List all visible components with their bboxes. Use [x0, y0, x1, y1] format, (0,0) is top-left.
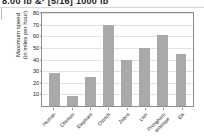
plot-area: 1020304050607080 — [41, 12, 194, 107]
y-tick-label: 40 — [33, 57, 39, 63]
x-tick-label: Lion — [138, 112, 149, 123]
bar-slot — [172, 13, 190, 106]
bar-slot — [154, 13, 172, 106]
bar-slot — [99, 13, 117, 106]
y-axis-title-line2: (in miles per hour) — [22, 11, 30, 59]
y-tick-label: 50 — [33, 45, 39, 51]
bar-series — [42, 13, 193, 106]
bar[interactable] — [139, 48, 150, 106]
x-label-slot: Zebra — [118, 108, 136, 140]
x-tick-label: Ostrich — [97, 112, 112, 127]
x-tick-mark — [163, 108, 164, 110]
x-label-slot: Elephant — [81, 108, 99, 140]
bar[interactable] — [103, 25, 114, 106]
bar[interactable] — [49, 73, 60, 106]
bar[interactable] — [121, 60, 132, 107]
bar-slot — [136, 13, 154, 106]
x-tick-mark — [127, 108, 128, 110]
bar-slot — [63, 13, 81, 106]
x-tick-mark — [53, 108, 54, 110]
y-tick-label: 60 — [33, 33, 39, 39]
x-tick-mark — [182, 108, 183, 110]
x-label-slot: Pronghorn antelope — [154, 108, 172, 140]
bar-chart: Maximum speed (in miles per hour) 102030… — [0, 8, 204, 140]
x-label-slot: Ostrich — [99, 108, 117, 140]
x-axis-labels: HumanChickenElephantOstrichZebraLionPron… — [41, 108, 194, 140]
bar-slot — [81, 13, 99, 106]
x-tick-mark — [72, 108, 73, 110]
bar[interactable] — [176, 54, 187, 106]
y-tick-label: 80 — [33, 10, 39, 16]
x-tick-label: Zebra — [117, 112, 130, 125]
bar-slot — [118, 13, 136, 106]
x-label-slot: Elk — [173, 108, 191, 140]
y-tick-label: 30 — [33, 68, 39, 74]
x-tick-mark — [145, 108, 146, 110]
bar[interactable] — [85, 77, 96, 106]
y-axis-title-line1: Maximum speed — [15, 13, 23, 57]
bar-slot — [45, 13, 63, 106]
y-axis-title: Maximum speed (in miles per hour) — [11, 0, 33, 83]
bar[interactable] — [157, 35, 168, 106]
x-tick-label: Human — [42, 112, 57, 127]
y-tick-label: 20 — [33, 80, 39, 86]
y-tick-label: 10 — [33, 91, 39, 97]
x-tick-mark — [90, 108, 91, 110]
x-tick-label: Elk — [177, 112, 186, 121]
bar[interactable] — [67, 96, 78, 106]
y-tick-label: 70 — [33, 22, 39, 28]
x-tick-mark — [108, 108, 109, 110]
